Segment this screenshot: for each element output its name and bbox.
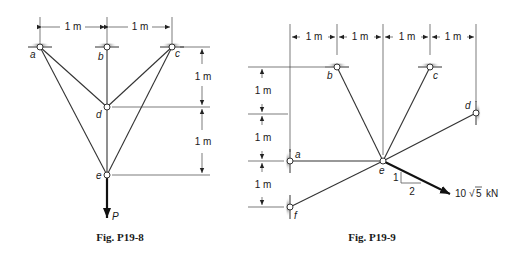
dim-h4: 1 m <box>445 31 462 42</box>
node-label-e: e <box>379 165 385 176</box>
node-label-c: c <box>433 70 438 81</box>
dim-h1: 1 m <box>65 21 82 32</box>
figure-p19-8: 1 m 1 m 1 m 1 m P <box>28 17 211 243</box>
dim-h1: 1 m <box>306 31 323 42</box>
load-label: P <box>112 211 119 222</box>
node-label-e: e <box>96 170 102 181</box>
node-label-b: b <box>327 70 333 81</box>
dim-h2: 1 m <box>352 31 369 42</box>
dim-v1: 1 m <box>195 71 212 82</box>
joint-icon <box>37 44 175 178</box>
slope-rise: 1 <box>393 172 399 183</box>
node-label-d: d <box>465 100 471 111</box>
load-label: 10 √ 5 kN <box>455 187 498 199</box>
dim-v2: 1 m <box>255 132 272 143</box>
node-label-d: d <box>96 109 102 120</box>
node-label-a: a <box>295 149 301 160</box>
node-label-f: f <box>294 210 298 221</box>
truss-members <box>40 47 172 175</box>
figure-caption: Fig. P19-9 <box>348 231 396 243</box>
node-label-a: a <box>30 49 36 60</box>
figure-caption: Fig. P19-8 <box>96 231 144 243</box>
dimension-labels: 1 m 1 m 1 m 1 m <box>65 21 212 147</box>
dim-h2: 1 m <box>132 21 149 32</box>
dim-v3: 1 m <box>255 179 272 190</box>
dim-h3: 1 m <box>399 31 416 42</box>
node-label-b: b <box>98 51 104 62</box>
dim-v2: 1 m <box>195 136 212 147</box>
figure-p19-9: 1 m 1 m 1 m 1 m 1 m 1 m 1 m <box>248 24 498 243</box>
load-unit: kN <box>486 188 498 199</box>
dimension-lines <box>248 24 476 207</box>
slope-run: 2 <box>409 186 415 197</box>
dim-v1: 1 m <box>255 85 272 96</box>
radical-icon: √ <box>469 188 475 199</box>
load-magnitude: 10 <box>455 188 467 199</box>
node-label-c: c <box>175 48 180 59</box>
load-radicand: 5 <box>476 188 482 199</box>
